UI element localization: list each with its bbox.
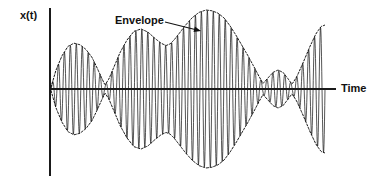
x-axis-label: Time <box>341 83 366 94</box>
waveform-plot <box>0 0 376 186</box>
envelope-annotation-leader-line <box>165 22 196 30</box>
y-axis-label: x(t) <box>20 10 37 21</box>
waveform-figure: x(t) Time Envelope <box>0 0 376 186</box>
envelope-annotation-label: Envelope <box>115 15 164 26</box>
upper-envelope-path <box>51 10 325 87</box>
